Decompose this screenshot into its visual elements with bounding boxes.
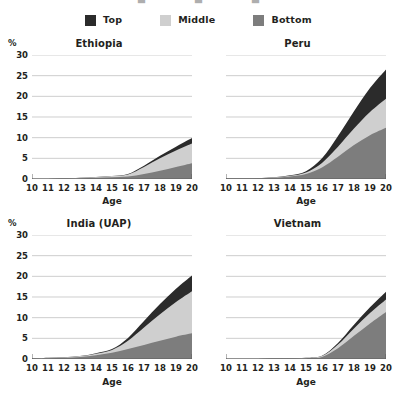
panel-title-peru: Peru (198, 38, 397, 49)
x-tick-18: 18 (154, 183, 166, 193)
y-tick-15: 15 (16, 292, 28, 302)
x-tick-19: 19 (364, 363, 376, 373)
panel-title-india: India (UAP) (0, 218, 198, 229)
area-chart-vietnam (226, 235, 386, 359)
panel-grid: % Ethiopia 051015202530 1011121314151617… (0, 33, 397, 395)
plot-area-ethiopia (32, 55, 192, 179)
area-chart-peru (226, 55, 386, 179)
x-tick-20: 20 (380, 363, 392, 373)
x-axis-title-ethiopia: Age (102, 196, 122, 206)
x-axis-title-peru: Age (296, 196, 316, 206)
y-axis-ticks-ethiopia: 051015202530 (0, 55, 28, 179)
legend-item-top[interactable]: Top (85, 15, 122, 26)
x-tick-14: 14 (284, 183, 296, 193)
legend-label-top: Top (103, 15, 122, 25)
panel-ethiopia: % Ethiopia 051015202530 1011121314151617… (0, 33, 198, 209)
x-axis-title-vietnam: Age (296, 377, 316, 387)
x-tick-16: 16 (316, 183, 328, 193)
x-tick-11: 11 (236, 363, 248, 373)
x-tick-18: 18 (154, 363, 166, 373)
plot-area-peru (226, 55, 386, 179)
x-tick-19: 19 (170, 183, 182, 193)
x-tick-12: 12 (58, 363, 70, 373)
x-tick-20: 20 (380, 183, 392, 193)
x-tick-10: 10 (220, 363, 232, 373)
legend-item-bottom[interactable]: Bottom (253, 15, 311, 26)
x-tick-18: 18 (348, 183, 360, 193)
x-tick-13: 13 (268, 363, 280, 373)
x-tick-20: 20 (186, 363, 198, 373)
y-tick-25: 25 (16, 71, 28, 81)
area-chart-ethiopia (32, 55, 192, 179)
panel-india: % India (UAP) 051015202530 1011121314151… (0, 213, 198, 395)
x-tick-14: 14 (90, 363, 102, 373)
legend-item-middle[interactable]: Middle (160, 15, 215, 26)
x-tick-17: 17 (138, 183, 150, 193)
x-tick-16: 16 (122, 363, 134, 373)
y-tick-30: 30 (16, 50, 28, 60)
x-tick-14: 14 (284, 363, 296, 373)
chart-page: ■ ■ ■ Top Middle Bottom % Ethiopia 05101… (0, 0, 397, 395)
plot-area-india (32, 235, 192, 359)
area-chart-india (32, 235, 192, 359)
legend-swatch-top (85, 15, 96, 26)
panel-title-ethiopia: Ethiopia (0, 38, 198, 49)
panel-vietnam: Vietnam 1011121314151617181920 Age (198, 213, 397, 395)
x-axis-ticks-india: 1011121314151617181920 (32, 363, 192, 375)
clipped-header-text: ■ ■ ■ (0, 0, 397, 4)
x-tick-15: 15 (300, 183, 312, 193)
x-tick-15: 15 (106, 363, 118, 373)
x-axis-ticks-vietnam: 1011121314151617181920 (226, 363, 386, 375)
x-tick-15: 15 (106, 183, 118, 193)
x-tick-17: 17 (332, 183, 344, 193)
y-tick-20: 20 (16, 91, 28, 101)
x-tick-19: 19 (364, 183, 376, 193)
y-tick-5: 5 (22, 333, 28, 343)
x-tick-12: 12 (58, 183, 70, 193)
y-axis-ticks-india: 051015202530 (0, 235, 28, 359)
x-tick-13: 13 (74, 183, 86, 193)
x-axis-title-india: Age (102, 377, 122, 387)
panel-title-vietnam: Vietnam (198, 218, 397, 229)
x-tick-10: 10 (26, 183, 38, 193)
legend-swatch-middle (160, 15, 171, 26)
y-tick-25: 25 (16, 251, 28, 261)
y-tick-5: 5 (22, 153, 28, 163)
legend-label-middle: Middle (178, 15, 215, 25)
panel-peru: Peru 1011121314151617181920 Age (198, 33, 397, 209)
x-tick-11: 11 (236, 183, 248, 193)
x-tick-15: 15 (300, 363, 312, 373)
y-tick-10: 10 (16, 313, 28, 323)
x-tick-12: 12 (252, 363, 264, 373)
x-tick-12: 12 (252, 183, 264, 193)
x-axis-ticks-ethiopia: 1011121314151617181920 (32, 183, 192, 195)
x-tick-10: 10 (26, 363, 38, 373)
x-tick-10: 10 (220, 183, 232, 193)
chart-legend: Top Middle Bottom (0, 9, 397, 31)
y-tick-10: 10 (16, 133, 28, 143)
x-tick-11: 11 (42, 363, 54, 373)
x-axis-ticks-peru: 1011121314151617181920 (226, 183, 386, 195)
x-tick-14: 14 (90, 183, 102, 193)
y-tick-20: 20 (16, 271, 28, 281)
x-tick-16: 16 (122, 183, 134, 193)
y-tick-30: 30 (16, 230, 28, 240)
x-tick-17: 17 (332, 363, 344, 373)
x-tick-18: 18 (348, 363, 360, 373)
x-tick-20: 20 (186, 183, 198, 193)
x-tick-11: 11 (42, 183, 54, 193)
x-tick-16: 16 (316, 363, 328, 373)
x-tick-13: 13 (268, 183, 280, 193)
x-tick-13: 13 (74, 363, 86, 373)
y-tick-15: 15 (16, 112, 28, 122)
legend-label-bottom: Bottom (271, 15, 311, 25)
x-tick-17: 17 (138, 363, 150, 373)
legend-swatch-bottom (253, 15, 264, 26)
plot-area-vietnam (226, 235, 386, 359)
clipped-header-strip: ■ ■ ■ (0, 0, 397, 6)
x-tick-19: 19 (170, 363, 182, 373)
